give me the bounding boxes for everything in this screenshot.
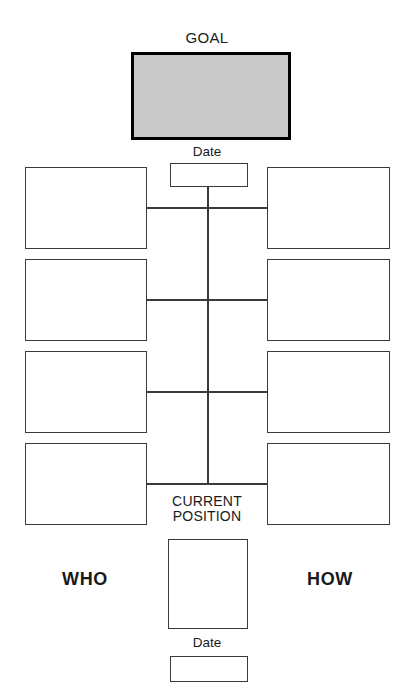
connector-left-2 bbox=[147, 299, 208, 301]
date-bottom-input[interactable] bbox=[170, 656, 248, 682]
current-position-box[interactable] bbox=[168, 539, 248, 629]
connector-right-3 bbox=[207, 391, 268, 393]
who-step-box-1[interactable] bbox=[25, 167, 147, 249]
how-step-box-4[interactable] bbox=[267, 443, 390, 525]
goal-planning-worksheet: GOAL Date CURRENT POSITION WHO HOW Date bbox=[0, 0, 414, 700]
date-top-input[interactable] bbox=[170, 163, 248, 187]
date-bottom-label: Date bbox=[143, 636, 271, 651]
who-column-label: WHO bbox=[20, 570, 150, 589]
goal-title-label: GOAL bbox=[0, 30, 414, 46]
goal-box[interactable] bbox=[131, 52, 291, 140]
how-step-box-2[interactable] bbox=[267, 259, 390, 341]
how-step-box-1[interactable] bbox=[267, 167, 390, 249]
how-column-label: HOW bbox=[265, 570, 395, 589]
who-step-box-2[interactable] bbox=[25, 259, 147, 341]
timeline-spine bbox=[207, 187, 209, 485]
who-step-box-3[interactable] bbox=[25, 351, 147, 433]
connector-right-2 bbox=[207, 299, 268, 301]
how-step-box-3[interactable] bbox=[267, 351, 390, 433]
connector-right-4 bbox=[207, 483, 268, 485]
connector-left-4 bbox=[147, 483, 208, 485]
connector-left-1 bbox=[147, 207, 208, 209]
who-step-box-4[interactable] bbox=[25, 443, 147, 525]
connector-left-3 bbox=[147, 391, 208, 393]
current-position-label: CURRENT POSITION bbox=[138, 494, 276, 524]
date-top-label: Date bbox=[143, 145, 271, 160]
connector-right-1 bbox=[207, 207, 268, 209]
